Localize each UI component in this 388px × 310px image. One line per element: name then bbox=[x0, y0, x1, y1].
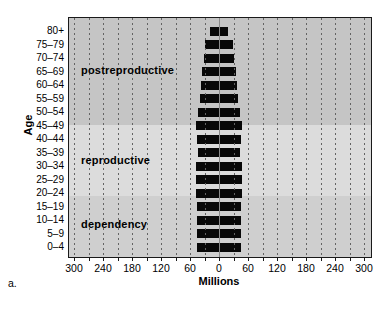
age-tick-label: 10–14 bbox=[0, 214, 64, 226]
x-tick bbox=[205, 258, 206, 261]
age-tick-label: 70–74 bbox=[0, 52, 64, 64]
gridline bbox=[176, 18, 177, 257]
x-tick bbox=[335, 258, 336, 261]
age-tick-label: 30–34 bbox=[0, 160, 64, 172]
x-tick-label: 0 bbox=[204, 262, 234, 274]
age-tick-label: 15–19 bbox=[0, 201, 64, 213]
x-tick bbox=[190, 258, 191, 261]
x-tick-label: 120 bbox=[146, 262, 176, 274]
gridline bbox=[205, 18, 206, 257]
figure-label: a. bbox=[8, 277, 17, 289]
x-tick bbox=[89, 258, 90, 261]
x-tick-label: 60 bbox=[175, 262, 205, 274]
age-tick-label: 50–54 bbox=[0, 106, 64, 118]
x-tick bbox=[147, 258, 148, 261]
gridline bbox=[190, 18, 191, 257]
population-pyramid-figure: Age 80+75–7970–7465–6960–6455–5950–5445–… bbox=[0, 0, 388, 310]
region-label-reproductive: reproductive bbox=[81, 154, 150, 166]
x-tick bbox=[306, 258, 307, 261]
age-tick-label: 20–24 bbox=[0, 187, 64, 199]
x-tick bbox=[219, 258, 220, 261]
x-tick bbox=[248, 258, 249, 261]
gridline bbox=[321, 18, 322, 257]
x-tick-label: 60 bbox=[233, 262, 263, 274]
gridline bbox=[234, 18, 235, 257]
x-tick-label: 300 bbox=[59, 262, 89, 274]
gridline bbox=[306, 18, 307, 257]
x-tick bbox=[350, 258, 351, 261]
age-tick-label: 75–79 bbox=[0, 39, 64, 51]
gridline bbox=[248, 18, 249, 257]
plot-area: postreproductivereproductivedependency bbox=[68, 17, 372, 258]
age-tick-label: 45–49 bbox=[0, 120, 64, 132]
age-tick-label: 0–4 bbox=[0, 241, 64, 253]
x-tick bbox=[321, 258, 322, 261]
x-tick bbox=[292, 258, 293, 261]
center-gridline bbox=[219, 18, 220, 257]
x-tick-label: 240 bbox=[320, 262, 350, 274]
age-tick-label: 60–64 bbox=[0, 79, 64, 91]
x-tick bbox=[118, 258, 119, 261]
region-label-postreproductive: postreproductive bbox=[81, 64, 174, 76]
x-tick-label: 300 bbox=[349, 262, 379, 274]
gridline bbox=[277, 18, 278, 257]
x-tick-label: 120 bbox=[262, 262, 292, 274]
x-tick bbox=[132, 258, 133, 261]
age-tick-label: 5–9 bbox=[0, 228, 64, 240]
x-tick bbox=[263, 258, 264, 261]
age-tick-label: 65–69 bbox=[0, 66, 64, 78]
x-axis-title: Millions bbox=[179, 275, 259, 287]
age-tick-label: 25–29 bbox=[0, 174, 64, 186]
x-tick bbox=[364, 258, 365, 261]
x-tick-label: 180 bbox=[117, 262, 147, 274]
gridline bbox=[292, 18, 293, 257]
gridline bbox=[161, 18, 162, 257]
gridline bbox=[364, 18, 365, 257]
region-label-dependency: dependency bbox=[81, 218, 147, 230]
gridline bbox=[350, 18, 351, 257]
x-tick bbox=[103, 258, 104, 261]
x-tick bbox=[234, 258, 235, 261]
age-tick-label: 35–39 bbox=[0, 147, 64, 159]
x-tick-label: 240 bbox=[88, 262, 118, 274]
gridline bbox=[335, 18, 336, 257]
gridline bbox=[74, 18, 75, 257]
x-tick bbox=[74, 258, 75, 261]
age-tick-label: 55–59 bbox=[0, 93, 64, 105]
x-tick-label: 180 bbox=[291, 262, 321, 274]
x-tick bbox=[161, 258, 162, 261]
age-tick-label: 80+ bbox=[0, 25, 64, 37]
age-tick-label: 40–44 bbox=[0, 133, 64, 145]
gridline bbox=[263, 18, 264, 257]
x-tick bbox=[277, 258, 278, 261]
x-tick bbox=[176, 258, 177, 261]
